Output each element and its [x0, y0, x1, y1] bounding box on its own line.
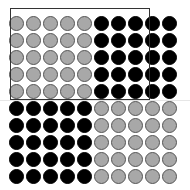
gray-circle	[128, 152, 143, 167]
gray-circle	[162, 135, 177, 150]
selection-frame	[10, 8, 150, 100]
black-circle	[162, 50, 177, 65]
black-circle	[162, 33, 177, 48]
black-circle	[60, 101, 75, 116]
black-circle	[26, 135, 41, 150]
gray-circle	[94, 169, 109, 184]
gray-circle	[111, 118, 126, 133]
gray-circle	[162, 152, 177, 167]
gray-circle	[145, 101, 160, 116]
black-circle	[26, 101, 41, 116]
gray-circle	[111, 152, 126, 167]
black-circle	[43, 135, 58, 150]
gray-circle	[128, 101, 143, 116]
black-circle	[77, 169, 92, 184]
gray-circle	[128, 135, 143, 150]
black-circle	[26, 152, 41, 167]
black-circle	[9, 135, 24, 150]
gray-circle	[111, 135, 126, 150]
black-circle	[60, 152, 75, 167]
black-circle	[162, 67, 177, 82]
black-circle	[9, 118, 24, 133]
divider-line	[0, 100, 190, 101]
black-circle	[60, 169, 75, 184]
gray-circle	[128, 118, 143, 133]
gray-circle	[94, 152, 109, 167]
gray-circle	[145, 169, 160, 184]
gray-circle	[94, 135, 109, 150]
black-circle	[60, 135, 75, 150]
black-circle	[77, 152, 92, 167]
black-circle	[26, 169, 41, 184]
gray-circle	[145, 152, 160, 167]
black-circle	[9, 101, 24, 116]
gray-circle	[111, 101, 126, 116]
black-circle	[43, 118, 58, 133]
gray-circle	[94, 118, 109, 133]
black-circle	[162, 16, 177, 31]
black-circle	[9, 169, 24, 184]
black-circle	[43, 169, 58, 184]
black-circle	[43, 152, 58, 167]
gray-circle	[162, 118, 177, 133]
gray-circle	[128, 169, 143, 184]
black-circle	[77, 118, 92, 133]
black-circle	[43, 101, 58, 116]
gray-circle	[94, 101, 109, 116]
black-circle	[162, 84, 177, 99]
gray-circle	[162, 169, 177, 184]
black-circle	[9, 152, 24, 167]
black-circle	[60, 118, 75, 133]
black-circle	[77, 135, 92, 150]
black-circle	[77, 101, 92, 116]
gray-circle	[111, 169, 126, 184]
gray-circle	[145, 135, 160, 150]
gray-circle	[145, 118, 160, 133]
gray-circle	[162, 101, 177, 116]
black-circle	[26, 118, 41, 133]
